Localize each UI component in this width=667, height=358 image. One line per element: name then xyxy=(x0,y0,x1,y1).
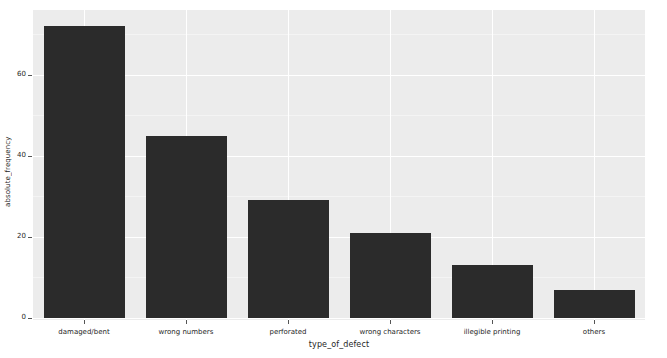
x-tick-mark xyxy=(84,320,85,324)
bar xyxy=(554,290,635,318)
bar xyxy=(452,265,533,318)
x-tick-mark xyxy=(288,320,289,324)
bar xyxy=(350,233,431,318)
y-tick-label: 40 xyxy=(17,151,26,160)
x-tick-label: others xyxy=(534,328,654,337)
x-tick-mark xyxy=(492,320,493,324)
x-tick-mark xyxy=(186,320,187,324)
y-tick-mark xyxy=(28,237,32,238)
bar xyxy=(248,200,329,318)
y-tick-mark xyxy=(28,156,32,157)
x-axis-title: type_of_defect xyxy=(33,340,645,349)
x-tick-mark xyxy=(594,320,595,324)
plot-area xyxy=(33,10,645,320)
y-tick-label: 60 xyxy=(17,70,26,79)
x-tick-mark xyxy=(390,320,391,324)
bars-layer xyxy=(33,10,645,320)
y-tick-label: 0 xyxy=(22,313,26,322)
bar xyxy=(44,26,125,318)
y-tick-mark xyxy=(28,318,32,319)
y-axis-title: absolute_frequency xyxy=(2,112,14,232)
y-tick-label: 20 xyxy=(17,232,26,241)
x-axis: damaged/bentwrong numbersperforatedwrong… xyxy=(33,320,645,342)
y-tick-mark xyxy=(28,75,32,76)
bar xyxy=(146,136,227,318)
bar-chart-figure: 0204060 absolute_frequency damaged/bentw… xyxy=(0,0,667,358)
